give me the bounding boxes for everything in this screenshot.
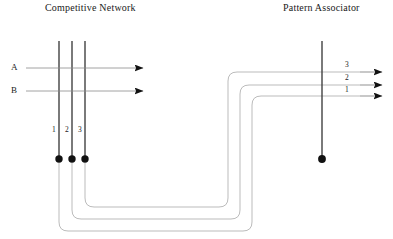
pattern-output-label-2: 2	[345, 74, 349, 82]
pattern-output-arrows	[360, 72, 382, 96]
competitive-somas	[55, 155, 88, 162]
competitive-soma-3	[81, 155, 88, 162]
figure-canvas: Competitive Network Pattern Associator A…	[0, 0, 393, 239]
competitive-dendrites	[59, 41, 85, 158]
competitive-unit-label-3: 3	[78, 126, 82, 134]
interconnect-axon-3	[85, 72, 374, 207]
input-label-a: A	[11, 63, 18, 72]
interconnect-axon-1	[59, 96, 374, 231]
interconnect-axon-2	[72, 85, 374, 219]
pattern-associator-neuron	[318, 41, 326, 163]
pattern-output-label-1: 1	[345, 86, 349, 94]
competitive-unit-label-1: 1	[52, 126, 56, 134]
pattern-output-label-3: 3	[345, 61, 349, 69]
network-diagram	[0, 0, 393, 239]
competitive-unit-label-2: 2	[65, 126, 69, 134]
input-label-b: B	[11, 86, 17, 95]
competitive-soma-1	[55, 155, 62, 162]
pattern-associator-soma	[318, 155, 326, 163]
pattern-associator-title: Pattern Associator	[283, 3, 360, 13]
competitive-soma-2	[68, 155, 75, 162]
competitive-network-title: Competitive Network	[45, 3, 136, 13]
interconnect-axons	[59, 72, 374, 231]
